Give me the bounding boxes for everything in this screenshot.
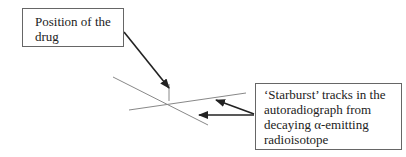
label-line: decaying α-emitting bbox=[264, 117, 401, 132]
pointer-arrows bbox=[124, 32, 254, 115]
starburst-tracks bbox=[113, 77, 246, 125]
drug-position-label: Position of the drug bbox=[22, 8, 124, 47]
label-line: Position of the bbox=[35, 14, 123, 29]
starburst-tracks-label: ‘Starburst’ tracks in the autoradiograph… bbox=[255, 83, 402, 150]
label-line: autoradiograph from bbox=[264, 102, 401, 117]
label-line: drug bbox=[35, 29, 123, 44]
label-line: ‘Starburst’ tracks in the bbox=[264, 87, 401, 102]
label-line: radioisotope bbox=[264, 132, 401, 147]
